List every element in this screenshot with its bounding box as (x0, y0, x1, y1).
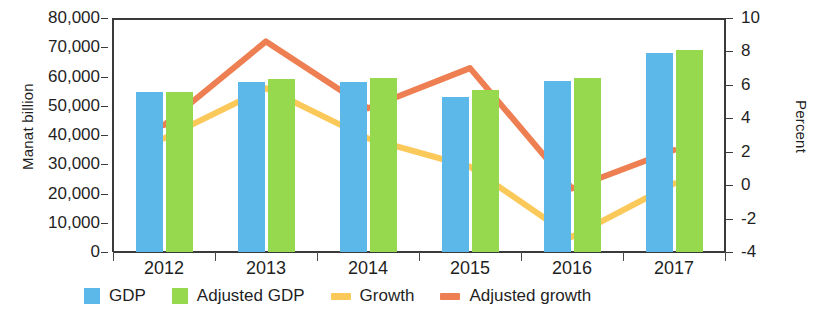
plot-area (113, 18, 725, 252)
legend-item-adjusted-growth[interactable]: Adjusted growth (440, 286, 591, 306)
y-axis-left-tick-mark (101, 18, 108, 19)
y-axis-right-tick-label: -2 (741, 210, 756, 227)
y-axis-left-tick-mark (101, 106, 108, 107)
bar-adjusted-gdp-2017 (676, 50, 703, 252)
y-axis-left-tick-mark (101, 47, 108, 48)
y-axis-right-tick-label: 2 (741, 143, 750, 160)
x-axis-label-2015: 2015 (425, 258, 515, 279)
y-axis-left-tick-mark (101, 194, 108, 195)
bar-gdp-2016 (544, 81, 571, 252)
y-axis-left-tick-label: 50,000 (48, 97, 100, 114)
bar-gdp-2012 (136, 92, 163, 252)
x-axis-label-2017: 2017 (629, 258, 719, 279)
bar-gdp-2013 (238, 82, 265, 252)
legend-item-gdp[interactable]: GDP (84, 286, 146, 306)
x-axis-tick-mark (113, 252, 114, 261)
y-axis-left-ticks: 010,00020,00030,00040,00050,00060,00070,… (0, 0, 108, 270)
y-axis-left-tick-label: 70,000 (48, 38, 100, 55)
y-axis-left-tick-mark (101, 164, 108, 165)
x-axis-tick-mark (725, 252, 726, 261)
x-axis-tick-mark (623, 252, 624, 261)
y-axis-left-tick-label: 80,000 (48, 9, 100, 26)
y-axis-right-tick-mark (725, 51, 733, 52)
y-axis-right-tick-mark (725, 185, 733, 186)
y-axis-left-tick-label: 0 (91, 243, 100, 260)
line-series-layer (113, 18, 725, 252)
y-axis-left-tick-label: 40,000 (48, 126, 100, 143)
y-axis-left-tick-mark (101, 77, 108, 78)
y-axis-left-tick-label: 20,000 (48, 185, 100, 202)
y-axis-left-tick-mark (101, 252, 108, 253)
legend-item-adjusted-gdp[interactable]: Adjusted GDP (172, 286, 305, 306)
x-axis-tick-mark (419, 252, 420, 261)
bar-adjusted-gdp-2012 (166, 92, 193, 252)
legend-swatch-line-icon (331, 293, 351, 300)
y-axis-left-tick-label: 30,000 (48, 155, 100, 172)
chart-legend: GDPAdjusted GDPGrowthAdjusted growth (84, 286, 617, 306)
x-axis-label-2012: 2012 (119, 258, 209, 279)
y-axis-right-tick-mark (725, 85, 733, 86)
y-axis-left-tick-label: 60,000 (48, 68, 100, 85)
y-axis-left-tick-mark (101, 223, 108, 224)
x-axis-tick-mark (521, 252, 522, 261)
y-axis-right-tick-mark (725, 18, 733, 19)
y-axis-right-tick-mark (725, 118, 733, 119)
y-axis-right-tick-mark (725, 252, 733, 253)
legend-item-growth[interactable]: Growth (331, 286, 415, 306)
y-axis-left-tick-label: 10,000 (48, 214, 100, 231)
y-axis-right-tick-label: 8 (741, 42, 750, 59)
legend-swatch-line-icon (440, 293, 460, 300)
y-axis-right-tick-label: 4 (741, 109, 750, 126)
legend-swatch-square-icon (172, 288, 188, 304)
legend-label: GDP (109, 286, 146, 306)
y-axis-right-tick-mark (725, 152, 733, 153)
x-axis-label-2013: 2013 (221, 258, 311, 279)
legend-label: Growth (360, 286, 415, 306)
bar-adjusted-gdp-2016 (574, 78, 601, 252)
bar-adjusted-gdp-2015 (472, 90, 499, 252)
bar-adjusted-gdp-2014 (370, 78, 397, 252)
x-axis-tick-mark (317, 252, 318, 261)
legend-label: Adjusted growth (469, 286, 591, 306)
x-axis-tick-mark (215, 252, 216, 261)
y-axis-right-tick-label: 0 (741, 176, 750, 193)
bar-gdp-2015 (442, 97, 469, 252)
bar-gdp-2017 (646, 53, 673, 252)
bar-gdp-2014 (340, 82, 367, 252)
y-axis-right-ticks: -4-20246810 (725, 0, 785, 270)
x-axis-label-2016: 2016 (527, 258, 617, 279)
y-axis-right-tick-label: -4 (741, 243, 756, 260)
bar-adjusted-gdp-2013 (268, 79, 295, 252)
legend-label: Adjusted GDP (197, 286, 305, 306)
chart-figure: Manat billion Percent 010,00020,00030,00… (0, 0, 826, 321)
y-axis-right-tick-label: 6 (741, 76, 750, 93)
y-axis-right-tick-mark (725, 219, 733, 220)
y-axis-left-tick-mark (101, 135, 108, 136)
x-axis-label-2014: 2014 (323, 258, 413, 279)
y-axis-right-title: Percent (793, 52, 810, 202)
legend-swatch-square-icon (84, 288, 100, 304)
y-axis-right-tick-label: 10 (741, 9, 760, 26)
